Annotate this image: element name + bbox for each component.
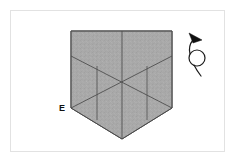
- rotate-loop-tail: [194, 65, 201, 76]
- diagram-canvas: E: [0, 0, 237, 164]
- paper-shape-group: [71, 31, 172, 139]
- rotate-loop-circle: [189, 50, 205, 66]
- rotate-arrowhead-icon: [189, 33, 202, 43]
- vertex-label-e: E: [59, 103, 65, 113]
- figure-root: E: [0, 0, 237, 164]
- rotate-loop-arrow-icon: [189, 33, 205, 76]
- paper-outline-texture-overlay: [71, 31, 172, 139]
